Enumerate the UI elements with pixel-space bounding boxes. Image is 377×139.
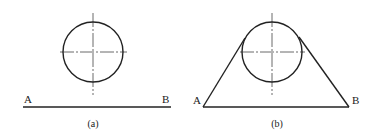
figure-a: A B (a) xyxy=(23,13,171,130)
figure-b: A B (b) xyxy=(193,13,359,130)
point-label-a: A xyxy=(193,94,201,106)
tangent-line-right xyxy=(299,37,349,107)
point-label-b: B xyxy=(162,93,169,105)
point-label-a: A xyxy=(24,93,32,105)
point-label-b: B xyxy=(352,94,359,106)
diagram-canvas: A B (a) A B (b) xyxy=(0,0,377,139)
caption-b: (b) xyxy=(271,118,283,130)
caption-a: (a) xyxy=(87,118,98,130)
tangent-line-left xyxy=(203,38,245,107)
